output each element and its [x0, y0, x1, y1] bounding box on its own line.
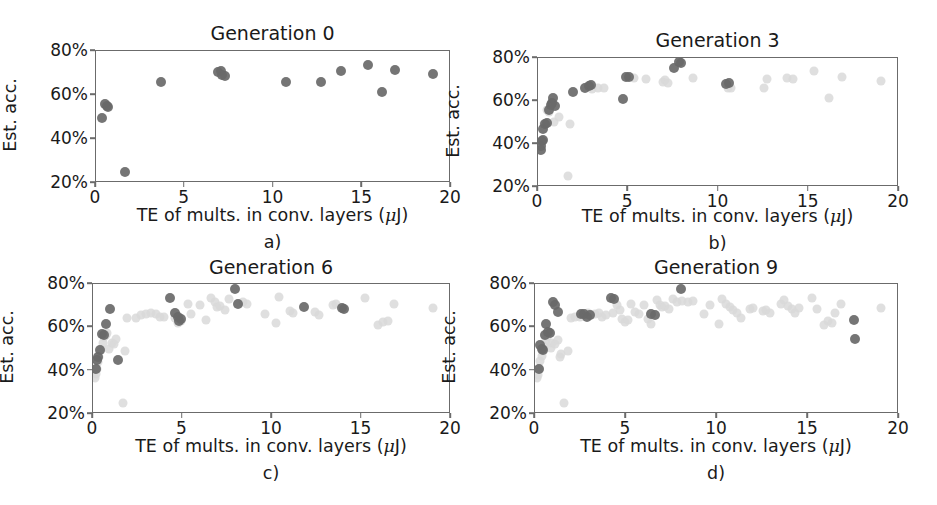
data-point-history: [196, 300, 205, 309]
data-point-history: [171, 313, 180, 322]
y-axis-label: Est. acc.: [0, 262, 17, 432]
data-point-history: [551, 339, 560, 348]
data-point-history: [601, 311, 610, 320]
data-point-current: [646, 309, 656, 319]
data-point-current: [233, 299, 243, 309]
data-point-history: [729, 306, 738, 315]
data-point-history: [827, 319, 836, 328]
y-tick: [90, 137, 95, 139]
x-tick: [449, 413, 451, 418]
data-point-history: [723, 84, 732, 93]
data-point-current: [216, 66, 226, 76]
data-point-current: [849, 315, 859, 325]
panel-c: Generation 60510152020%40%60%80%TE of mu…: [0, 0, 937, 505]
data-point-current: [545, 328, 555, 338]
x-tick-label: 15: [350, 187, 372, 207]
data-point-history: [727, 84, 736, 93]
data-point-history: [389, 299, 398, 308]
data-point-history: [642, 74, 651, 83]
y-tick-label: 40%: [33, 128, 88, 148]
data-point-current: [97, 329, 107, 339]
data-point-history: [545, 328, 554, 337]
y-tick-label: 80%: [33, 40, 88, 60]
plot-area: [534, 283, 898, 413]
data-point-history: [689, 297, 698, 306]
data-point-current: [299, 302, 309, 312]
y-tick-label: 20%: [472, 403, 527, 423]
data-point-history: [216, 301, 225, 310]
data-point-history: [647, 320, 656, 329]
data-point-history: [131, 313, 140, 322]
data-point-history: [534, 371, 542, 380]
data-point-history: [762, 306, 771, 315]
data-point-history: [788, 75, 797, 84]
x-axis-label-prefix: TE of mults. in conv. layers (: [582, 206, 830, 226]
data-point-current: [337, 303, 347, 313]
x-tick-label: 5: [178, 187, 189, 207]
y-tick-label: 80%: [475, 47, 530, 67]
data-point-current: [97, 113, 107, 123]
data-point-current: [538, 345, 548, 355]
y-tick-label: 80%: [30, 273, 85, 293]
data-point-current: [377, 87, 387, 97]
data-point-current: [618, 94, 628, 104]
data-point-history: [583, 309, 592, 318]
data-point-current: [428, 69, 438, 79]
data-point-current: [336, 66, 346, 76]
data-point-history: [836, 299, 845, 308]
data-point-history: [314, 311, 323, 320]
data-point-current: [105, 304, 115, 314]
data-point-current: [101, 319, 111, 329]
data-point-current: [721, 79, 731, 89]
data-point-history: [534, 374, 542, 383]
data-point-current: [535, 340, 545, 350]
data-point-history: [776, 299, 785, 308]
data-point-current: [537, 344, 547, 354]
data-point-history: [629, 74, 638, 83]
y-tick: [529, 369, 534, 371]
data-point-history: [759, 84, 768, 93]
data-point-history: [225, 295, 234, 304]
data-point-history: [332, 299, 341, 308]
data-point-history: [112, 335, 121, 344]
panel-title: Generation 3: [537, 29, 898, 51]
data-point-current: [544, 105, 554, 115]
x-axis-label-prefix: TE of mults. in conv. layers (: [580, 436, 828, 456]
x-axis-label-prefix: TE of mults. in conv. layers (: [135, 436, 383, 456]
data-point-current: [213, 67, 223, 77]
data-point-current: [538, 124, 548, 134]
data-point-history: [151, 309, 160, 318]
data-point-history: [289, 309, 298, 318]
x-axis-label: TE of mults. in conv. layers (μJ): [92, 436, 450, 456]
data-point-history: [672, 298, 681, 307]
panel-a: Generation 00510152020%40%60%80%TE of mu…: [0, 0, 937, 505]
data-point-history: [612, 300, 621, 309]
data-point-history: [98, 338, 107, 347]
data-point-current: [609, 294, 619, 304]
panel-caption: d): [534, 463, 898, 483]
panel-title: Generation 0: [95, 22, 450, 44]
y-tick-label: 20%: [475, 176, 530, 196]
x-tick: [183, 182, 185, 187]
x-tick-label: 10: [707, 191, 729, 211]
y-tick: [87, 412, 92, 414]
panel-caption: b): [537, 233, 898, 253]
y-tick: [87, 326, 92, 328]
x-tick-label: 15: [796, 418, 818, 438]
data-point-current: [547, 98, 557, 108]
data-point-history: [537, 351, 546, 360]
data-point-history: [535, 364, 544, 373]
data-point-history: [763, 74, 772, 83]
data-point-current: [724, 78, 734, 88]
data-point-history: [260, 310, 269, 319]
data-point-history: [373, 321, 382, 330]
data-point-current: [621, 72, 631, 82]
data-point-history: [791, 309, 800, 318]
x-tick-label: 15: [797, 191, 819, 211]
x-tick: [360, 413, 362, 418]
data-point-current: [113, 355, 123, 365]
panel-title: Generation 6: [92, 256, 450, 278]
data-point-history: [631, 308, 640, 317]
data-point-current: [95, 345, 105, 355]
data-point-history: [658, 77, 667, 86]
